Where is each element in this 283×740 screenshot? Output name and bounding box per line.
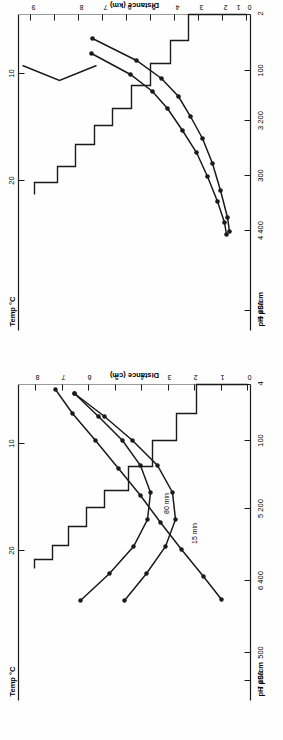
bottom-distance-tick-2: 2 [193,373,197,380]
top-distance-tick-2: 2 [223,3,227,10]
top-distance-tick-9: 9 [31,3,35,10]
bottom-distance-tick-3: 3 [167,373,171,380]
top-distance-tick-4: 4 [175,3,179,10]
series-ph-curve-b-top-markers [89,51,229,237]
bottom-temp-axis-label: Temp °C [7,665,16,696]
top-cond-tick-3: 3 200 [255,111,264,130]
top-temp-tick-10: 10 [6,69,15,77]
bottom-cond-tick-5: 4 [255,381,264,385]
bottom-cond-tick-3: 5 200 [255,499,264,518]
top-distance-tick-7: 7 [103,3,107,10]
bottom-distance-tick-4: 4 [140,373,144,380]
annotation-80-min: 80 min [162,492,169,513]
series-ph-curve-a-top [92,38,229,231]
bottom-distance-tick-1: 1 [220,373,224,380]
top-distance-tick-3: 3 [199,3,203,10]
figure-page: Temp °C 20 10 pH µS/cm 5 600 4 400 300 3… [0,0,283,740]
bottom-distance-tick-6: 6 [87,373,91,380]
top-distance-axis-label: Distance (km) [109,0,159,9]
chart-top-rotated-canvas: Temp °C 20 10 pH µS/cm 5 600 4 400 300 3… [0,0,283,370]
top-temp-tick-20: 20 [6,176,15,184]
series-conductivity-step-bottom [34,384,247,568]
chart-top-svg: Temp °C 20 10 pH µS/cm 5 600 4 400 300 3… [0,0,283,370]
series-temp-bottom [55,389,221,599]
top-distance-tick-5: 5 [151,3,155,10]
bottom-distance-tick-8: 8 [35,373,39,380]
series-ph-curve-b-top [91,53,226,234]
bottom-distance-tick-7: 7 [61,373,65,380]
bottom-cond-tick-0: 7 600 [255,671,264,690]
top-cond-tick-4: 100 [255,64,264,77]
bottom-cond-tick-4: 100 [255,434,264,447]
annotation-15-min: 15 min [190,522,197,543]
chart-bottom-svg: 80 min 15 min Temp °C 20 10 pH µS/cm 7 6… [0,370,283,740]
series-ph-curve-a-top-markers [90,36,232,234]
bottom-distance-tick-5: 5 [114,373,118,380]
series-temp-spike-top [22,65,96,80]
top-cond-tick-1: 4 400 [255,221,264,240]
top-cond-tick-0: 5 600 [255,301,264,320]
top-distance-tick-1: 1 [236,3,240,10]
top-distance-tick-6: 6 [127,3,131,10]
bottom-temp-tick-20: 20 [6,546,15,554]
bottom-temp-tick-10: 10 [6,439,15,447]
chart-panel-bottom: 80 min 15 min Temp °C 20 10 pH µS/cm 7 6… [0,370,283,740]
bottom-distance-tick-0: 0 [247,373,251,380]
chart-bottom-rotated-canvas: 80 min 15 min Temp °C 20 10 pH µS/cm 7 6… [0,370,283,740]
series-ph-15min-markers [72,391,177,602]
bottom-cond-tick-1: 500 [255,646,264,659]
bottom-cond-tick-2: 6 400 [255,571,264,590]
top-cond-tick-2: 300 [255,169,264,182]
top-distance-tick-8: 8 [79,3,83,10]
top-temp-axis-label: Temp °C [7,295,16,326]
series-ph-15min [74,393,175,600]
chart-panel-top: Temp °C 20 10 pH µS/cm 5 600 4 400 300 3… [0,0,283,370]
top-distance-tick-0: 0 [247,3,251,10]
top-cond-tick-5: 2 [255,11,264,15]
